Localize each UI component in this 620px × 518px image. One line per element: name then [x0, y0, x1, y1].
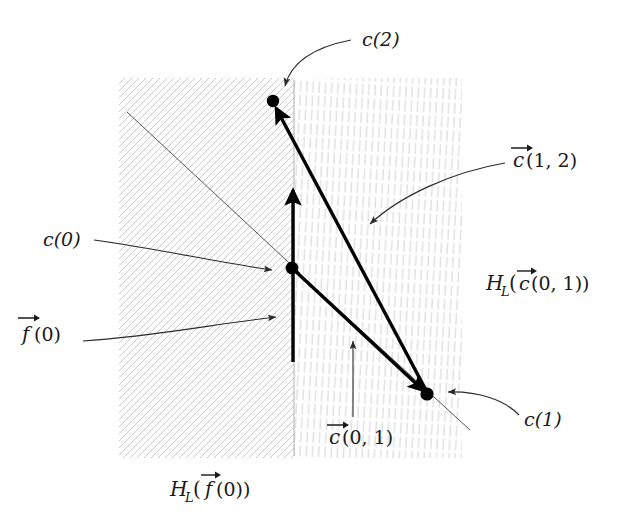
label-halfplane-c01-open: ( — [509, 271, 517, 295]
point-c2 — [267, 95, 279, 107]
label-f0-args: (0) — [34, 323, 61, 345]
label-halfplane-f0-open: ( — [193, 477, 201, 501]
label-halfplane-f0: H L ( f (0)) — [169, 472, 250, 505]
label-c12-base: c — [513, 148, 524, 172]
label-halfplane-c01-base: c — [519, 272, 530, 294]
label-f0-vector: f (0) — [18, 314, 61, 346]
vector-half-plane-diagram: c(2) c(0) c(1) f (0) c (1, 2) c (0, 1) — [0, 0, 620, 518]
label-c01-args: (0, 1) — [342, 426, 393, 448]
point-c0 — [286, 262, 299, 275]
label-c01-base: c — [329, 425, 340, 449]
point-c1 — [420, 387, 433, 400]
vector-arrow-head-f0 — [34, 314, 40, 321]
label-c12-vector: c (1, 2) — [511, 144, 577, 172]
label-c01-vector: c (0, 1) — [327, 421, 393, 449]
left-halfplane-region — [119, 78, 294, 458]
right-halfplane-region — [294, 78, 462, 458]
label-c12-args: (1, 2) — [526, 149, 577, 171]
label-halfplane-f0-base: f — [203, 477, 216, 501]
label-halfplane-c01: H L ( c (0, 1)) — [485, 268, 590, 299]
label-f0-base: f — [20, 322, 33, 346]
label-halfplane-f0-args: (0)) — [216, 478, 250, 500]
label-c0: c(0) — [43, 228, 81, 250]
label-halfplane-c01-args: (0, 1)) — [531, 272, 590, 294]
label-c1: c(1) — [524, 408, 562, 430]
label-c2: c(2) — [362, 28, 400, 50]
